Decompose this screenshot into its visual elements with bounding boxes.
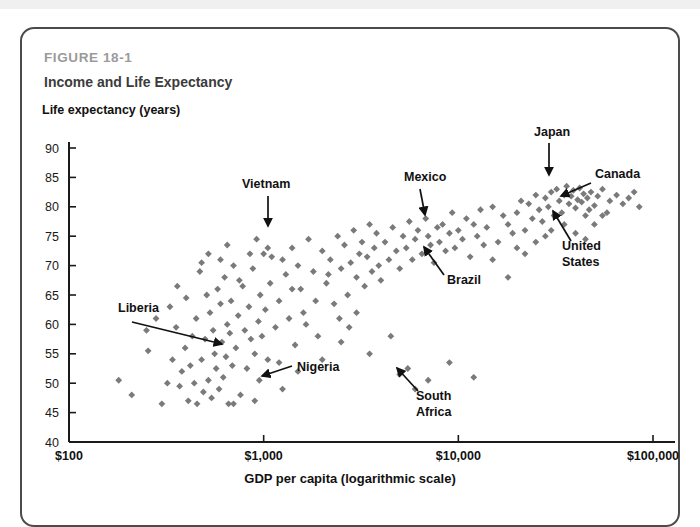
data-point xyxy=(185,397,192,404)
data-point xyxy=(449,209,456,216)
data-point xyxy=(312,297,319,304)
data-point xyxy=(251,350,258,357)
data-point xyxy=(386,256,393,263)
data-point xyxy=(474,233,481,240)
data-point xyxy=(276,359,283,366)
data-point xyxy=(217,300,224,307)
data-point xyxy=(205,377,212,384)
data-point xyxy=(387,333,394,340)
data-point xyxy=(220,374,227,381)
x-axis-title: GDP per capita (logarithmic scale) xyxy=(0,471,700,486)
data-point xyxy=(169,356,176,363)
data-point xyxy=(542,195,549,202)
data-point xyxy=(364,253,371,260)
annotation-label: Africa xyxy=(416,405,452,419)
data-point xyxy=(582,212,589,219)
data-point xyxy=(514,209,521,216)
data-point xyxy=(350,227,357,234)
data-point xyxy=(295,262,302,269)
data-point xyxy=(536,206,543,213)
data-point xyxy=(409,256,416,263)
data-point xyxy=(470,221,477,228)
data-point xyxy=(568,193,575,200)
data-point xyxy=(259,333,266,340)
data-point xyxy=(459,236,466,243)
data-point xyxy=(221,274,228,281)
data-point xyxy=(463,215,470,222)
data-point xyxy=(236,277,243,284)
data-point xyxy=(182,345,189,352)
data-point xyxy=(228,297,235,304)
data-point xyxy=(217,256,224,263)
data-point xyxy=(518,198,525,205)
data-point xyxy=(347,259,354,266)
data-point xyxy=(548,189,555,196)
data-point xyxy=(191,380,198,387)
data-point xyxy=(505,274,512,281)
data-point xyxy=(427,242,434,249)
data-point xyxy=(267,280,274,287)
data-point xyxy=(400,233,407,240)
y-tick-label: 60 xyxy=(45,318,59,332)
data-point xyxy=(229,362,236,369)
y-tick-label: 80 xyxy=(45,200,59,214)
y-tick-label: 70 xyxy=(45,259,59,273)
data-point xyxy=(315,333,322,340)
data-point xyxy=(470,374,477,381)
data-point xyxy=(237,392,244,399)
data-point xyxy=(158,400,165,407)
data-point xyxy=(346,324,353,331)
data-point xyxy=(310,268,317,275)
data-point xyxy=(292,342,299,349)
data-point xyxy=(198,356,205,363)
y-tick-label: 85 xyxy=(45,171,59,185)
data-point xyxy=(505,221,512,228)
data-point xyxy=(353,274,360,281)
data-point xyxy=(377,277,384,284)
data-point xyxy=(232,345,239,352)
data-point xyxy=(373,230,380,237)
data-point xyxy=(361,283,368,290)
annotation-label: Nigeria xyxy=(297,360,340,374)
data-point xyxy=(279,386,286,393)
data-point xyxy=(323,280,330,287)
data-point xyxy=(514,245,521,252)
data-point xyxy=(305,236,312,243)
data-point xyxy=(396,265,403,272)
data-point xyxy=(489,203,496,210)
data-point xyxy=(542,233,549,240)
data-point xyxy=(128,392,135,399)
annotation-label: Canada xyxy=(595,167,641,181)
data-point xyxy=(167,303,174,310)
data-point xyxy=(289,286,296,293)
data-point xyxy=(230,400,237,407)
data-point xyxy=(451,245,458,252)
annotation-arrow xyxy=(262,366,292,376)
data-point xyxy=(522,227,529,234)
data-point xyxy=(434,224,441,231)
annotation-label: Brazil xyxy=(447,273,481,287)
data-point xyxy=(495,239,502,246)
x-tick-label: $100,000 xyxy=(627,449,679,463)
data-point xyxy=(353,309,360,316)
y-tick-label: 90 xyxy=(45,142,59,156)
annotation-label: Vietnam xyxy=(242,177,290,191)
data-point xyxy=(338,339,345,346)
data-point xyxy=(382,239,389,246)
data-point xyxy=(366,221,373,228)
data-point xyxy=(572,205,579,212)
data-point xyxy=(286,315,293,322)
x-tick-label: $1,000 xyxy=(245,449,283,463)
data-point xyxy=(572,230,579,237)
data-point xyxy=(480,242,487,249)
data-point xyxy=(619,200,626,207)
data-point xyxy=(529,215,536,222)
data-point xyxy=(178,368,185,375)
data-point xyxy=(425,377,432,384)
data-point xyxy=(548,227,555,234)
data-point xyxy=(331,300,338,307)
data-point xyxy=(173,324,180,331)
annotation-arrow xyxy=(420,189,425,215)
data-point xyxy=(276,297,283,304)
